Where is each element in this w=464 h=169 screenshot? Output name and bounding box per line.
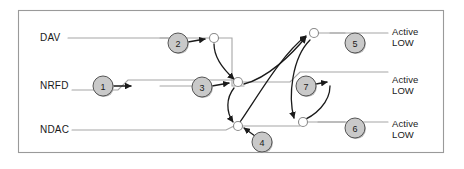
marker-label-5: 5 xyxy=(352,39,357,49)
bubble-ndac-out xyxy=(299,118,308,127)
signal-label-dav: DAV xyxy=(40,32,60,43)
output-label-dav-line2: LOW xyxy=(392,37,414,48)
output-label-nrfd-line1: Active xyxy=(392,74,418,85)
event-marker-3[interactable]: 3 xyxy=(192,77,213,98)
marker-label-1: 1 xyxy=(100,82,105,92)
bubble-ndac-mid xyxy=(234,122,243,131)
marker-label-7: 7 xyxy=(303,82,308,92)
output-label-dav-line1: Active xyxy=(392,26,418,37)
diagram-frame xyxy=(19,11,444,153)
marker-label-3: 3 xyxy=(199,83,204,93)
event-marker-5[interactable]: 5 xyxy=(345,33,366,54)
signal-label-ndac: NDAC xyxy=(40,124,69,135)
event-marker-6[interactable]: 6 xyxy=(345,118,366,139)
output-label-nrfd-line2: LOW xyxy=(392,85,414,96)
bubble-dav-transition xyxy=(210,34,219,43)
event-marker-2[interactable]: 2 xyxy=(168,33,189,54)
bubble-nrfd-mid xyxy=(234,78,243,87)
marker-label-4: 4 xyxy=(259,138,264,148)
event-marker-4[interactable]: 4 xyxy=(252,132,273,153)
handshake-diagram: 1234567 DAV NRFD NDAC Active LOW Active … xyxy=(0,0,464,169)
bubble-dav-out xyxy=(310,29,319,38)
signal-label-nrfd: NRFD xyxy=(40,80,69,91)
output-label-ndac-line1: Active xyxy=(392,118,418,129)
output-label-ndac-line2: LOW xyxy=(392,129,414,140)
event-marker-7[interactable]: 7 xyxy=(296,76,317,97)
marker-label-2: 2 xyxy=(175,39,180,49)
event-marker-1[interactable]: 1 xyxy=(93,76,114,97)
marker-label-6: 6 xyxy=(352,124,357,134)
